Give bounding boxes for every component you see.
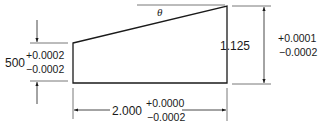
right-height-plus-tol: +0.0001: [278, 32, 316, 44]
part-outline: [73, 6, 227, 83]
bottom-width-minus-tol: −0.0002: [147, 111, 185, 123]
angle-label: θ: [157, 6, 163, 18]
bottom-width-plus-tol: +0.0000: [146, 97, 184, 109]
right-height-nominal: 1.125: [220, 39, 250, 53]
left-height-dimension: 500 +0.0002 −0.0002: [5, 20, 68, 104]
left-height-plus-tol: +0.0002: [26, 49, 64, 61]
tapered-part-drawing: θ 500 +0.0002 −0.0002 1.125 +0.0001 −0.0…: [0, 0, 318, 129]
bottom-width-dimension: 2.000 +0.0000 −0.0002: [73, 88, 227, 123]
left-height-minus-tol: −0.0002: [26, 63, 64, 75]
bottom-width-nominal: 2.000: [112, 104, 142, 118]
right-height-dimension: 1.125 +0.0001 −0.0002: [220, 6, 317, 84]
right-height-minus-tol: −0.0002: [279, 46, 317, 58]
left-height-nominal: 500: [5, 56, 25, 70]
